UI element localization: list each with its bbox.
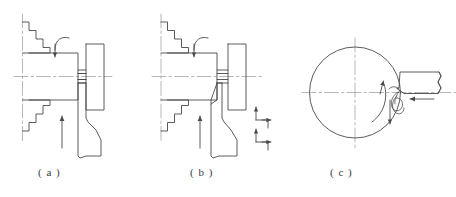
parting-groove-lower	[217, 80, 228, 84]
technical-figure: ( a ) ( b ) ( c )	[0, 0, 456, 197]
panel-b	[152, 14, 271, 158]
parting-groove	[217, 70, 228, 74]
rotation-arrow	[55, 37, 69, 57]
figure-canvas	[0, 0, 456, 197]
panel-c	[302, 38, 456, 148]
stepped-chuck-jaws	[23, 22, 51, 53]
parted-disc	[86, 44, 104, 110]
stepped-chuck-jaws	[161, 22, 189, 53]
stepped-chuck-jaws-lower	[161, 100, 189, 131]
caption-a: ( a )	[38, 166, 61, 178]
caption-b: ( b )	[190, 166, 213, 178]
caption-c: ( c )	[330, 166, 353, 178]
panel-a	[14, 14, 112, 158]
chip-spiral	[389, 87, 404, 114]
stepped-feed-path-lower	[256, 129, 271, 150]
stepped-chuck-jaws-lower	[23, 100, 51, 131]
rotation-arrow	[194, 37, 208, 57]
rotation-arrow	[372, 81, 386, 122]
parting-groove	[78, 70, 86, 74]
parted-disc	[228, 44, 246, 110]
parting-tool	[211, 83, 237, 158]
stepped-feed-path-upper	[256, 107, 271, 128]
parting-groove-lower	[78, 80, 86, 84]
parting-tool	[78, 83, 101, 158]
tool-break-line	[438, 72, 441, 94]
cutting-tool-shank	[397, 72, 441, 94]
